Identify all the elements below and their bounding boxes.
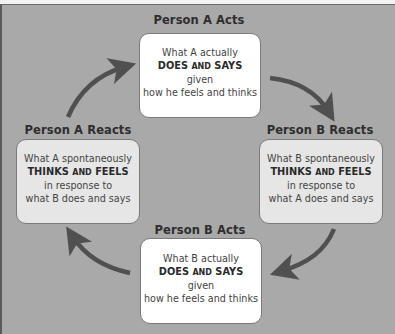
emphasis-word: SAYS xyxy=(215,266,243,277)
node-a-acts: What A actually DOES AND SAYS given how … xyxy=(139,33,261,118)
node-emphasis: THINKS AND FEELS xyxy=(27,165,128,179)
emphasis-word: FEELS xyxy=(95,166,128,177)
node-emphasis: DOES AND SAYS xyxy=(159,265,243,279)
node-line: What B actually xyxy=(163,252,239,265)
emphasis-word: SAYS xyxy=(214,60,242,71)
node-title-a-reacts: Person A Reacts xyxy=(25,123,132,137)
emphasis-word: AND xyxy=(72,168,92,177)
node-line: What A spontaneously xyxy=(24,152,132,165)
node-title-b-acts: Person B Acts xyxy=(155,223,246,237)
node-title-a-acts: Person A Acts xyxy=(153,13,244,27)
emphasis-word: AND xyxy=(192,268,212,277)
emphasis-word: DOES xyxy=(158,60,188,71)
node-emphasis: DOES AND SAYS xyxy=(158,59,242,73)
node-b-acts: What B actually DOES AND SAYS given how … xyxy=(140,238,262,324)
emphasis-word: FEELS xyxy=(338,166,371,177)
node-line: What B spontaneously xyxy=(267,152,375,165)
node-line: how he feels and thinks xyxy=(143,86,257,99)
arrow-a-reacts-to-a-acts-icon xyxy=(68,67,124,117)
emphasis-word: THINKS xyxy=(27,166,68,177)
node-line: what B does and says xyxy=(26,192,131,205)
emphasis-word: THINKS xyxy=(270,166,311,177)
node-line: given xyxy=(188,279,214,292)
node-line: given xyxy=(187,73,213,86)
node-line: in response to xyxy=(44,179,112,192)
node-line: how he feels and thinks xyxy=(144,292,258,305)
node-line: What A actually xyxy=(162,46,238,59)
diagram-canvas: Person A Acts What A actually DOES AND S… xyxy=(0,4,395,334)
node-line: in response to xyxy=(287,179,355,192)
emphasis-word: AND xyxy=(191,62,211,71)
arrow-b-reacts-to-b-acts-icon xyxy=(282,229,334,271)
node-a-reacts: What A spontaneously THINKS AND FEELS in… xyxy=(16,139,140,224)
node-b-reacts: What B spontaneously THINKS AND FEELS in… xyxy=(259,139,383,224)
emphasis-word: DOES xyxy=(159,266,189,277)
node-emphasis: THINKS AND FEELS xyxy=(270,165,371,179)
arrow-a-acts-to-b-reacts-icon xyxy=(270,78,328,111)
arrow-b-acts-to-a-reacts-icon xyxy=(73,237,130,273)
node-title-b-reacts: Person B Reacts xyxy=(267,123,374,137)
node-line: what A does and says xyxy=(269,192,374,205)
emphasis-word: AND xyxy=(315,168,335,177)
